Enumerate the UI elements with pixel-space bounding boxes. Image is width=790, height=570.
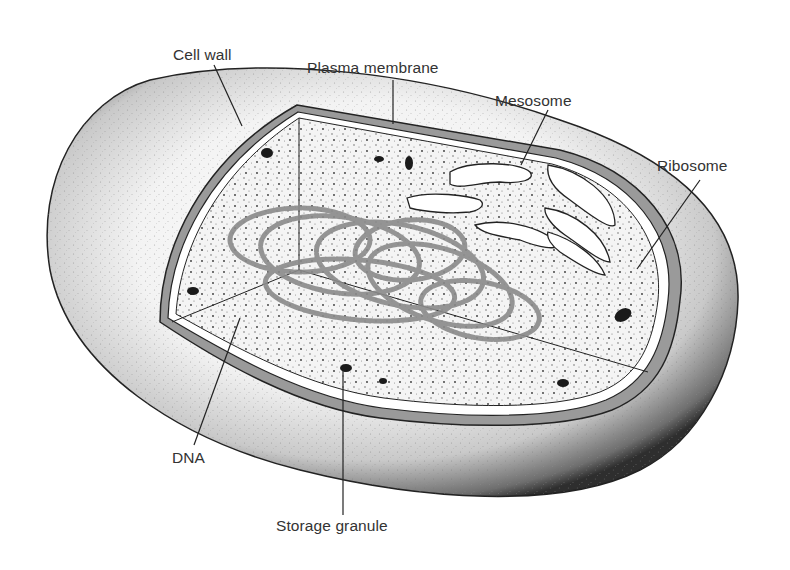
label-mesosome: Mesosome <box>495 92 572 110</box>
label-cell-wall: Cell wall <box>173 46 232 64</box>
label-dna: DNA <box>172 449 205 467</box>
label-storage-granule: Storage granule <box>276 517 388 535</box>
label-plasma-membrane: Plasma membrane <box>307 59 439 77</box>
prokaryotic-cell-diagram <box>0 0 790 570</box>
label-ribosome: Ribosome <box>657 157 728 175</box>
